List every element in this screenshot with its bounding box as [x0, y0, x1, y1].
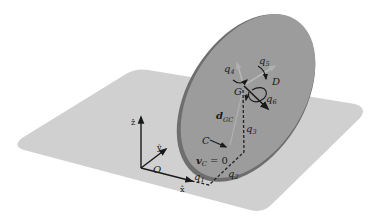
- direction-d-label: D: [271, 76, 280, 87]
- rolling-disk-diagram: ẑ ŷ x̂ O q1 q2 q3 q4 q5 q6 G D C dGC vC …: [0, 0, 377, 220]
- origin-label: O: [153, 164, 161, 175]
- x-axis-label: x̂: [180, 185, 185, 194]
- z-axis-label: ẑ: [131, 118, 135, 127]
- y-axis-label: ŷ: [156, 143, 162, 152]
- center-g-label: G: [234, 86, 242, 97]
- contact-c-label: C: [202, 135, 210, 146]
